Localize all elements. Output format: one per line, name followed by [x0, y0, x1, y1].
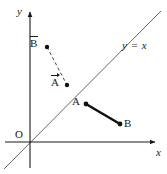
point-marker-b-bar	[45, 45, 49, 49]
point-marker-a	[84, 102, 89, 107]
point-label-a-bar: A	[51, 77, 59, 88]
point-label-b: B	[124, 118, 131, 129]
figure-canvas	[0, 0, 167, 174]
point-label-b-bar: B	[30, 38, 37, 49]
point-marker-b	[118, 122, 123, 127]
point-marker-a-bar	[65, 83, 69, 87]
identity-line-label: y = x	[122, 40, 147, 51]
point-label-b-bar-text: B	[30, 38, 37, 49]
point-label-a-bar-text: A	[51, 77, 59, 88]
origin-label: O	[15, 129, 23, 140]
x-axis-label: x	[156, 147, 161, 158]
original-segment-solid	[86, 104, 120, 124]
y-axis-label: y	[17, 6, 22, 17]
point-label-a: A	[72, 96, 80, 107]
geometry-figure: y x O y = x B A A B	[0, 0, 167, 174]
identity-line-y-equals-x	[4, 11, 161, 169]
